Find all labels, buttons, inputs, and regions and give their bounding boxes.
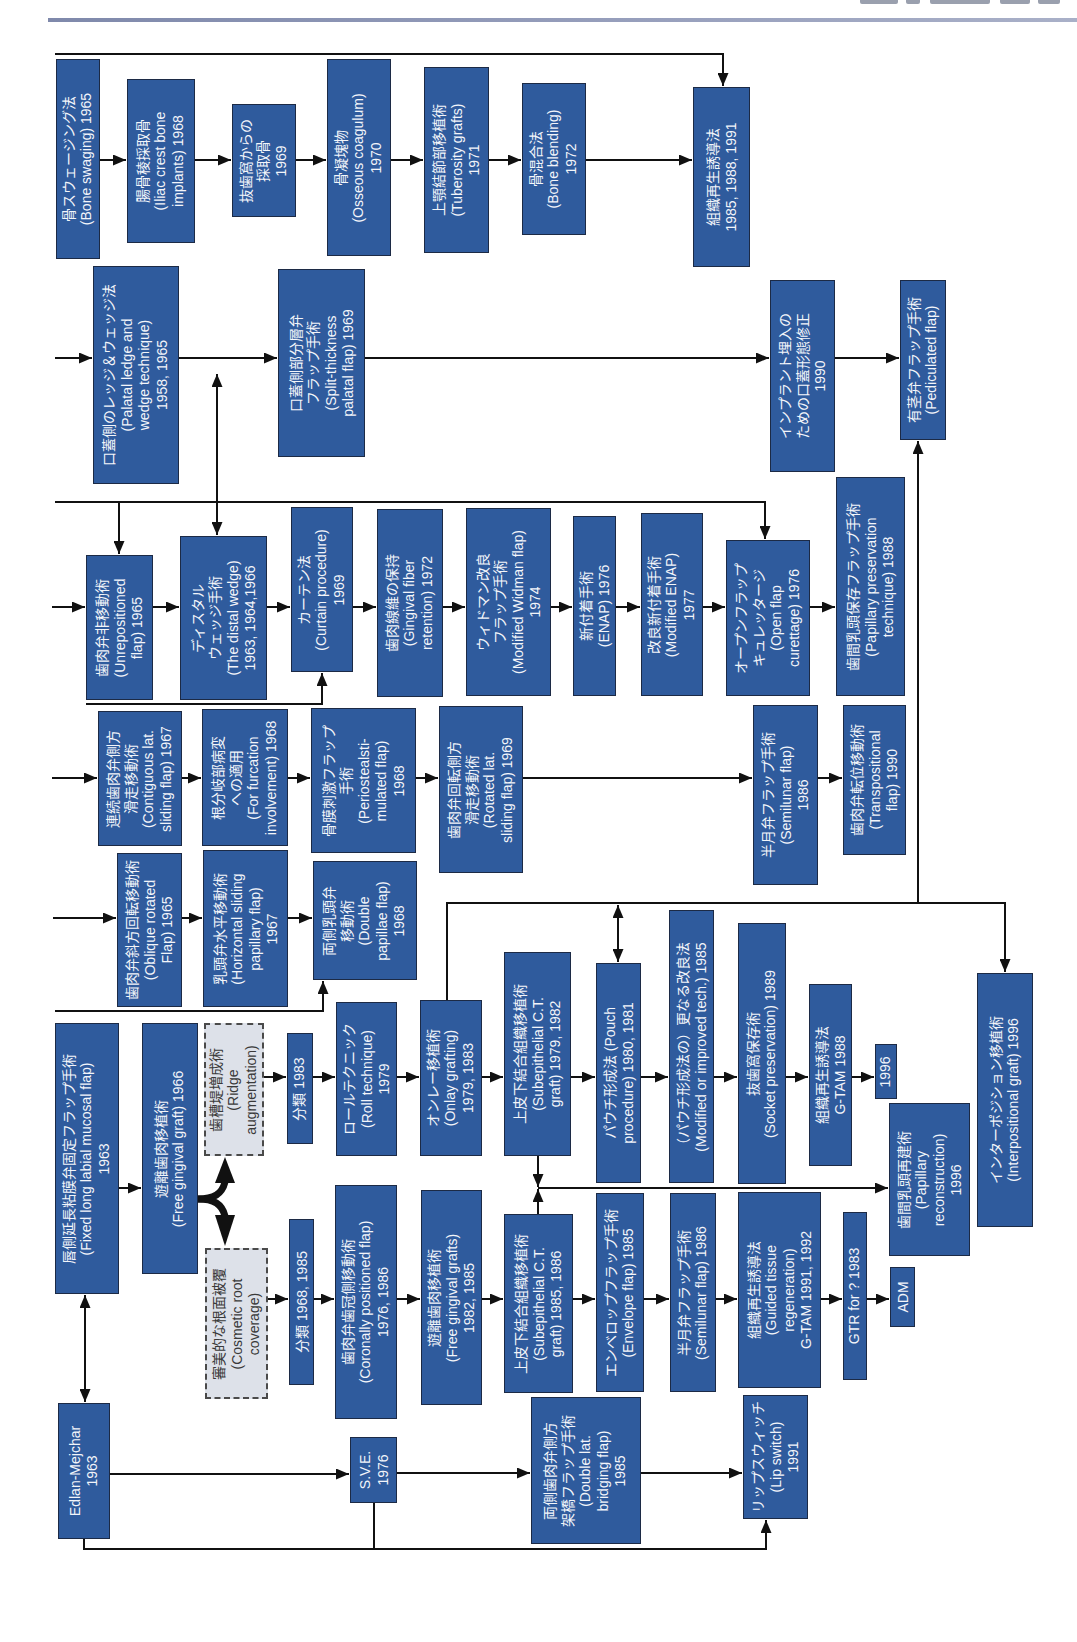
node-label: GTR for ? 1983 <box>843 1212 867 1380</box>
node-label: 抜歯窩からの 採取骨 1969 <box>232 104 296 217</box>
node-horizontal-sliding-papillary: 乳頭弁水平移動術 (Horizontal sliding papillary f… <box>203 850 288 1007</box>
node-label: 両側歯肉弁側方 架橋フラップ手術 (Double lat. bridging f… <box>531 1397 641 1544</box>
node-label: 歯肉弁回転側方 滑走移動術 (Rotated lat. sliding flap… <box>439 706 523 873</box>
node-label: ADM <box>890 1267 915 1327</box>
node-label: 遊離歯肉移植術 (Free gingival graft) 1966 <box>142 1023 198 1274</box>
node-edlan-mejchar: Edlan-Mejchar 1963 <box>58 1403 110 1539</box>
node-label: 腸骨稜採取骨 (Iliac crest bone implants) 1968 <box>127 79 195 243</box>
node-label: リップスウィッチ (Lip switch) 1991 <box>743 1395 808 1519</box>
node-oblique-rotated: 歯肉弁斜方回転移動術 (Oblique rotated Flap) 1965 <box>117 853 182 1007</box>
node-label: 口蓋側のレッジ＆ウェッジ法 (Palatal ledge and wedge t… <box>93 266 179 484</box>
node-lip-switch: リップスウィッチ (Lip switch) 1991 <box>743 1395 808 1519</box>
node-label: 歯間乳頭保存フラップ手術 (Papillary preservation tec… <box>836 477 905 696</box>
node-label: （パウチ形成法の）更なる改良法 (Modified or improved te… <box>669 910 714 1183</box>
node-label: 歯肉弁転位移動術 (Transpositional flap) 1990 <box>843 705 906 855</box>
category-ridge-augmentation: 歯槽堤増成術 (Ridge augmentation) <box>204 1023 264 1156</box>
node-tuberosity-grafts: 上顎結節部移植術 (Tuberosity grafts) 1971 <box>424 67 489 253</box>
node-label: 根分岐部病変 への適用 (For furcation involvement) … <box>202 709 288 846</box>
node-osseous-coagulum: 骨凝塊物 (Osseous coagulum) 1970 <box>327 59 391 256</box>
node-label: パウチ形成法 (Pouch procedure) 1980, 1981 <box>596 963 641 1183</box>
node-subepithelial-ct-1979: 上皮下結合組織移植術 (Subepithelial C.T. graft) 19… <box>504 952 571 1156</box>
node-label: 連続歯肉弁側方 滑走移動術 (Contiguous lat. sliding f… <box>98 711 182 846</box>
node-label: インプラント埋入の ための口蓋形態修正 1990 <box>770 280 835 472</box>
connectors-flap-row <box>52 502 835 704</box>
node-distal-wedge: ディスタル ウェッジ手術 (The distal wedge) 1963, 19… <box>180 536 267 700</box>
node-roll-technique: ロールテクニック (Roll technique) 1979 <box>336 1002 397 1156</box>
node-label: オープンフラップ キュレッタージ (Open flap curettage) 1… <box>726 540 810 696</box>
node-semilunar-flap-upper: 半月弁フラップ手術 (Semilunar flap) 1986 <box>753 705 818 885</box>
node-furcation-involvement: 根分岐部病変 への適用 (For furcation involvement) … <box>202 709 288 846</box>
node-envelope-flap: エンベロップフラップ手術 (Envelope flap) 1985 <box>596 1193 644 1392</box>
node-palatal-ledge-wedge: 口蓋側のレッジ＆ウェッジ法 (Palatal ledge and wedge t… <box>93 266 179 484</box>
node-unrepositioned-flap: 歯肉弁非移動術 (Unrepositioned flap) 1965 <box>86 555 153 700</box>
node-label: 骨膜刺激フラップ 手術 (Periostealsti- mulated flap… <box>311 708 416 853</box>
node-semilunar-flap: 半月弁フラップ手術 (Semilunar flap) 1986 <box>670 1193 716 1392</box>
node-label: 歯間乳頭再建術 (Papillary reconstruction) 1996 <box>889 1103 970 1256</box>
node-curtain-procedure: カーテン法 (Curtain procedure) 1969 <box>291 507 353 672</box>
node-label: オンレー移植術 (Onlay grafting) 1979, 1983 <box>420 1000 482 1156</box>
node-socket-preservation: 抜歯窩保存術 (Socket preservation) 1989 <box>738 923 786 1184</box>
node-modified-widman: ウィドマン改良 フラップ手術 (Modified Widman flap) 19… <box>466 508 551 696</box>
node-label: 組織再生誘導法 1985, 1988, 1991 <box>693 87 750 267</box>
node-pouch-procedure: パウチ形成法 (Pouch procedure) 1980, 1981 <box>596 963 641 1183</box>
node-contiguous-lat-sliding: 連続歯肉弁側方 滑走移動術 (Contiguous lat. sliding f… <box>98 711 182 846</box>
node-sve: S.V.E. 1976 <box>350 1437 397 1503</box>
node-label: 組織再生誘導法 (Guided tissue regeneration) G-T… <box>738 1192 821 1388</box>
node-label: 歯肉線維の保持 (Gingival fiber retention) 1972 <box>377 509 443 697</box>
node-label: 有茎弁フラップ手術 (Pediculated flap) <box>900 280 946 440</box>
node-root-classification: 分類 1968, 1985 <box>289 1219 314 1385</box>
node-label: 唇側延長粘膜弁固定フラップ手術 (Fixed long labial mucos… <box>55 1023 119 1294</box>
node-onlay-grafting: オンレー移植術 (Onlay grafting) 1979, 1983 <box>420 1000 482 1156</box>
node-iliac-crest: 腸骨稜採取骨 (Iliac crest bone implants) 1968 <box>127 79 195 243</box>
node-label: 分類 1968, 1985 <box>289 1219 314 1385</box>
node-label: 歯肉弁歯冠側移動術 (Coronally positioned flap) 19… <box>335 1185 397 1419</box>
node-transpositional-flap: 歯肉弁転位移動術 (Transpositional flap) 1990 <box>843 705 906 855</box>
node-adm: ADM <box>890 1267 915 1327</box>
node-guided-tissue-regeneration: 組織再生誘導法 (Guided tissue regeneration) G-T… <box>738 1192 821 1388</box>
node-split-thickness-palatal: 口蓋側部分層弁 フラップ手術 (Split-thickness palatal … <box>278 269 365 457</box>
node-label: 審美的な根面被覆 (Cosmetic root coverage) <box>205 1248 268 1399</box>
node-bone-blending: 骨混合法 (Bone blending) 1972 <box>522 83 586 235</box>
category-cosmetic-root-coverage: 審美的な根面被覆 (Cosmetic root coverage) <box>205 1248 268 1399</box>
node-label: 骨凝塊物 (Osseous coagulum) 1970 <box>327 59 391 256</box>
node-label: 上顎結節部移植術 (Tuberosity grafts) 1971 <box>424 67 489 253</box>
node-label: インターポジション移植術 (Interpositional graft) 199… <box>977 973 1033 1227</box>
node-label: ディスタル ウェッジ手術 (The distal wedge) 1963, 19… <box>180 536 267 700</box>
node-papillary-reconstruction: 歯間乳頭再建術 (Papillary reconstruction) 1996 <box>889 1103 970 1256</box>
node-label: 遊離歯肉移植術 (Free gingival grafts) 1982, 198… <box>421 1190 482 1405</box>
node-gtam-1988: 組織再生誘導法 G-TAM 1988 <box>809 984 852 1166</box>
node-enap: 新付着手術 (ENAP) 1976 <box>573 516 616 696</box>
node-free-gingival-graft: 遊離歯肉移植術 (Free gingival graft) 1966 <box>142 1023 198 1274</box>
node-label: 両側乳頭弁 移動術 (Double papillae flap) 1968 <box>313 861 417 980</box>
node-palatal-contour-implant: インプラント埋入の ための口蓋形態修正 1990 <box>770 280 835 472</box>
node-label: Edlan-Mejchar 1963 <box>58 1403 110 1539</box>
node-interpositional-graft: インターポジション移植術 (Interpositional graft) 199… <box>977 973 1033 1227</box>
node-pediculated-flap: 有茎弁フラップ手術 (Pediculated flap) <box>900 280 946 440</box>
node-label: 組織再生誘導法 G-TAM 1988 <box>809 984 852 1166</box>
node-double-papillae: 両側乳頭弁 移動術 (Double papillae flap) 1968 <box>313 861 417 980</box>
node-label: カーテン法 (Curtain procedure) 1969 <box>291 507 353 672</box>
node-label: 抜歯窩保存術 (Socket preservation) 1989 <box>738 923 786 1184</box>
node-label: 1996 <box>875 1044 897 1099</box>
node-label: S.V.E. 1976 <box>350 1437 397 1503</box>
node-label: 上皮下結合組織移植術 (Subepithelial C.T. graft) 19… <box>504 952 571 1156</box>
node-label: ロールテクニック (Roll technique) 1979 <box>336 1002 397 1156</box>
node-papillary-preservation: 歯間乳頭保存フラップ手術 (Papillary preservation tec… <box>836 477 905 696</box>
node-label: 口蓋側部分層弁 フラップ手術 (Split-thickness palatal … <box>278 269 365 457</box>
node-label: 歯肉弁斜方回転移動術 (Oblique rotated Flap) 1965 <box>117 853 182 1007</box>
node-label: 上皮下結合組織移植術 (Subepithelial C.T. graft) 19… <box>504 1214 573 1393</box>
node-free-gingival-grafts: 遊離歯肉移植術 (Free gingival grafts) 1982, 198… <box>421 1190 482 1405</box>
node-label: 歯槽堤増成術 (Ridge augmentation) <box>204 1023 264 1156</box>
node-open-flap-curettage: オープンフラップ キュレッタージ (Open flap curettage) 1… <box>726 540 810 696</box>
node-extraction-socket-bone: 抜歯窩からの 採取骨 1969 <box>232 104 296 217</box>
node-label: ウィドマン改良 フラップ手術 (Modified Widman flap) 19… <box>466 508 551 696</box>
node-periosteal-stimulated: 骨膜刺激フラップ 手術 (Periostealsti- mulated flap… <box>311 708 416 853</box>
node-label: 半月弁フラップ手術 (Semilunar flap) 1986 <box>670 1193 716 1392</box>
node-ridge-classification: 分類 1983 <box>287 1033 313 1144</box>
node-label: 改良新付着手術 (Modified ENAP) 1977 <box>641 513 703 696</box>
node-subepithelial-ct-1985: 上皮下結合組織移植術 (Subepithelial C.T. graft) 19… <box>504 1214 573 1393</box>
node-label: 骨スウェージング法 (Bone swaging) 1965 <box>56 59 100 259</box>
node-gingival-fiber-retention: 歯肉線維の保持 (Gingival fiber retention) 1972 <box>377 509 443 697</box>
node-fixed-long-labial-mucosal: 唇側延長粘膜弁固定フラップ手術 (Fixed long labial mucos… <box>55 1023 119 1294</box>
node-bone-swaging: 骨スウェージング法 (Bone swaging) 1965 <box>56 59 100 259</box>
